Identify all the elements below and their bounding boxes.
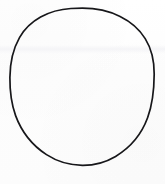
- circle-drawing: [0, 0, 165, 184]
- figure-canvas: [0, 0, 165, 184]
- circle-outline-icon: [10, 8, 154, 165]
